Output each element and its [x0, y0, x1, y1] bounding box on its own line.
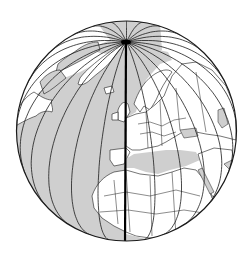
prime-meridian: [125, 42, 126, 246]
globe-svg: [0, 0, 249, 264]
north-pole-marker: [121, 40, 131, 45]
globe-map: [0, 0, 249, 264]
